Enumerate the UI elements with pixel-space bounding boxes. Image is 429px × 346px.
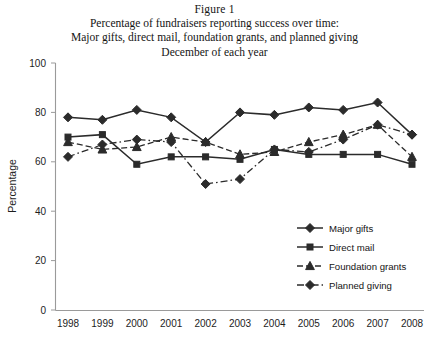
legend-marker xyxy=(307,244,313,250)
x-axis: 1998199920002001200220032004200520062007… xyxy=(56,311,425,330)
data-point xyxy=(98,140,107,149)
y-tick-group: 020406080100 xyxy=(29,58,55,316)
y-axis: 020406080100 xyxy=(29,58,55,316)
data-point xyxy=(64,113,73,122)
legend-label: Direct mail xyxy=(329,242,374,253)
x-tick-label: 2001 xyxy=(160,318,183,329)
plot-area: 020406080100 199819992000200120022003200… xyxy=(0,0,429,346)
y-tick-label: 100 xyxy=(29,58,46,69)
legend-label: Planned giving xyxy=(329,280,392,291)
x-tick-label: 2005 xyxy=(298,318,321,329)
data-point xyxy=(236,175,245,184)
legend-item-foundation-grants[interactable]: Foundation grants xyxy=(297,261,407,272)
x-tick-label: 1999 xyxy=(91,318,114,329)
data-point xyxy=(409,161,415,167)
y-tick-label: 20 xyxy=(35,255,47,266)
legend-item-direct-mail[interactable]: Direct mail xyxy=(297,242,374,253)
chart-legend: Major giftsDirect mailFoundation grantsP… xyxy=(297,223,407,291)
legend-item-planned-giving[interactable]: Planned giving xyxy=(297,280,392,291)
series-major-gifts xyxy=(64,98,417,147)
x-tick-label: 2004 xyxy=(263,318,286,329)
data-point xyxy=(270,110,279,119)
legend-label: Major gifts xyxy=(329,223,373,234)
data-point xyxy=(340,151,346,157)
data-point xyxy=(64,152,73,161)
data-point xyxy=(304,137,313,145)
legend-label: Foundation grants xyxy=(329,261,407,272)
legend-marker xyxy=(306,281,315,290)
x-tick-label: 2006 xyxy=(332,318,355,329)
x-tick-label: 1998 xyxy=(57,318,80,329)
data-point xyxy=(304,103,313,112)
data-point xyxy=(168,154,174,160)
y-axis-title: Percentage xyxy=(6,159,18,213)
figure-container: Figure 1 Percentage of fundraisers repor… xyxy=(0,0,429,346)
x-tick-label: 2002 xyxy=(194,318,217,329)
y-tick-label: 40 xyxy=(35,206,47,217)
y-tick-label: 60 xyxy=(35,156,47,167)
y-tick-label: 80 xyxy=(35,107,47,118)
legend-item-major-gifts[interactable]: Major gifts xyxy=(297,223,373,234)
x-tick-label: 2008 xyxy=(401,318,424,329)
y-tick-label: 0 xyxy=(40,305,46,316)
data-point xyxy=(99,132,105,138)
data-point xyxy=(134,161,140,167)
data-point xyxy=(203,154,209,160)
data-point xyxy=(132,105,141,114)
x-tick-label: 2007 xyxy=(366,318,389,329)
series-layer xyxy=(64,98,417,189)
data-point xyxy=(339,105,348,114)
line-chart: 020406080100 199819992000200120022003200… xyxy=(0,0,429,346)
data-point xyxy=(201,180,210,189)
data-point xyxy=(375,151,381,157)
x-tick-label: 2003 xyxy=(229,318,252,329)
data-point xyxy=(132,135,141,144)
legend-marker xyxy=(306,224,315,233)
x-tick-group: 1998199920002001200220032004200520062007… xyxy=(57,318,424,329)
data-point xyxy=(98,115,107,124)
x-tick-label: 2000 xyxy=(126,318,149,329)
